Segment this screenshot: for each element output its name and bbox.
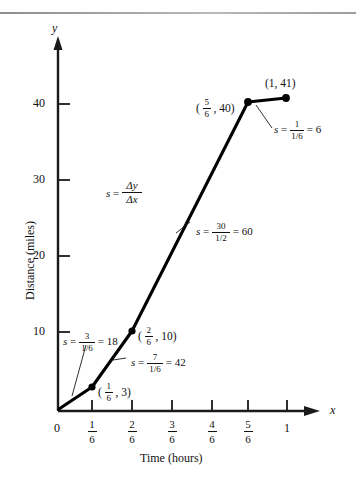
slope-60-result: 60 xyxy=(242,225,253,237)
point-2-6-10-numerator: 2 xyxy=(145,326,153,336)
slope-42-variable: s xyxy=(131,356,135,368)
y-axis-ticks xyxy=(58,104,70,332)
marker-1-6-3 xyxy=(88,383,95,390)
fraction-bar xyxy=(244,431,253,432)
point-2-6-10-denominator: 6 xyxy=(145,338,153,348)
slope-60-numerator: 30 xyxy=(212,222,230,232)
slope-42-equals: = xyxy=(138,356,144,368)
marker-2-6-10 xyxy=(128,327,135,334)
point-5-6-40-open: ( xyxy=(196,102,200,114)
x-axis-letter: x xyxy=(330,404,335,416)
x-tick-label-1: 1 xyxy=(284,422,290,434)
x-tick-label-5-6: 5 6 xyxy=(237,418,259,445)
x-tick-1-6-denominator: 6 xyxy=(81,433,103,445)
point-1-6-3-denominator: 6 xyxy=(105,394,113,404)
x-tick-label-1-6: 1 6 xyxy=(81,418,103,445)
x-tick-label-0: 0 xyxy=(54,422,60,434)
fraction-bar xyxy=(128,431,137,432)
x-axis-arrowhead xyxy=(304,406,320,416)
point-5-6-40-numerator: 5 xyxy=(203,98,211,108)
x-tick-4-6-denominator: 6 xyxy=(201,433,223,445)
leader-slope-6 xyxy=(256,105,272,128)
slope-6-denominator: 1/6 xyxy=(290,132,304,142)
x-tick-label-2-6: 2 6 xyxy=(121,418,143,445)
point-2-6-10-rest: , 10) xyxy=(156,330,177,342)
y-tick-label-30: 30 xyxy=(33,173,45,185)
y-axis-arrowhead xyxy=(54,36,63,50)
slope-annotation-18: s = 3 1/6 = 18 xyxy=(63,332,118,353)
slope-annotation-60: s = 30 1/2 = 60 xyxy=(196,222,253,243)
slope-18-denominator: 1/6 xyxy=(79,344,95,354)
slope-annotation-42: s = 7 1/6 = 42 xyxy=(131,353,186,374)
slope-6-numerator: 1 xyxy=(290,120,304,130)
point-label-5-6-40: ( 5 6 , 40) xyxy=(196,98,235,119)
x-tick-label-3-6: 3 6 xyxy=(161,418,183,445)
y-axis-title: Distance (miles) xyxy=(24,221,36,300)
x-axis-title: Time (hours) xyxy=(140,452,203,464)
slope-6-result: 6 xyxy=(316,123,322,135)
slope-18-equals-2: = xyxy=(98,335,104,347)
slope-annotation-6: s = 1 1/6 = 6 xyxy=(274,120,321,141)
figure-root: y x 40 30 20 10 0 1 6 2 6 3 6 4 6 5 6 1 … xyxy=(0,0,356,483)
slope-definition: s = Δy Δx xyxy=(106,180,142,206)
point-5-6-40-fraction: 5 6 xyxy=(203,98,211,119)
slope-60-denominator: 1/2 xyxy=(212,234,230,244)
x-tick-3-6-denominator: 6 xyxy=(161,433,183,445)
point-1-6-3-rest: , 3) xyxy=(116,386,131,398)
x-tick-2-6-numerator: 2 xyxy=(121,418,143,430)
slope-60-fraction: 30 1/2 xyxy=(212,222,230,243)
slope-42-result: 42 xyxy=(175,356,186,368)
slope-42-numerator: 7 xyxy=(147,353,163,363)
point-2-6-10-fraction: 2 6 xyxy=(145,326,153,347)
fraction-bar xyxy=(168,431,177,432)
leader-slope-42 xyxy=(113,358,126,360)
slope-42-equals-2: = xyxy=(166,356,172,368)
slope-60-equals-2: = xyxy=(233,225,239,237)
point-label-1-6-3: ( 1 6 , 3) xyxy=(98,382,131,403)
point-1-6-3-open: ( xyxy=(98,386,102,398)
slope-definition-denominator: Δx xyxy=(122,194,142,206)
fraction-bar xyxy=(88,431,97,432)
x-tick-label-4-6: 4 6 xyxy=(201,418,223,445)
y-tick-label-40: 40 xyxy=(33,97,45,109)
slope-6-equals: = xyxy=(281,123,287,135)
slope-definition-variable: s xyxy=(106,187,110,199)
slope-definition-equals: = xyxy=(113,187,119,199)
slope-6-equals-2: = xyxy=(307,123,313,135)
x-tick-4-6-numerator: 4 xyxy=(201,418,223,430)
x-tick-2-6-denominator: 6 xyxy=(121,433,143,445)
point-5-6-40-rest: , 40) xyxy=(214,102,235,114)
point-label-2-6-10: ( 2 6 , 10) xyxy=(138,326,177,347)
slope-definition-fraction: Δy Δx xyxy=(122,180,142,206)
marker-1-41 xyxy=(282,94,290,102)
x-tick-5-6-numerator: 5 xyxy=(237,418,259,430)
slope-60-variable: s xyxy=(196,225,200,237)
slope-6-variable: s xyxy=(274,123,278,135)
data-point-markers xyxy=(88,94,290,391)
point-2-6-10-open: ( xyxy=(138,330,142,342)
slope-18-numerator: 3 xyxy=(79,332,95,342)
slope-definition-numerator: Δy xyxy=(122,180,142,192)
x-tick-1-6-numerator: 1 xyxy=(81,418,103,430)
slope-6-fraction: 1 1/6 xyxy=(290,120,304,141)
slope-18-result: 18 xyxy=(107,335,118,347)
x-tick-5-6-denominator: 6 xyxy=(237,433,259,445)
y-axis-letter: y xyxy=(52,22,57,34)
slope-18-fraction: 3 1/6 xyxy=(79,332,95,353)
point-1-6-3-fraction: 1 6 xyxy=(105,382,113,403)
slope-18-equals: = xyxy=(70,335,76,347)
point-1-6-3-numerator: 1 xyxy=(105,382,113,392)
slope-18-variable: s xyxy=(63,335,67,347)
slope-42-denominator: 1/6 xyxy=(147,365,163,375)
point-5-6-40-denominator: 6 xyxy=(203,110,211,120)
x-tick-3-6-numerator: 3 xyxy=(161,418,183,430)
point-label-1-41: (1, 41) xyxy=(265,78,296,90)
slope-60-equals: = xyxy=(203,225,209,237)
marker-5-6-40 xyxy=(244,98,252,106)
fraction-bar xyxy=(208,431,217,432)
y-tick-label-10: 10 xyxy=(33,325,45,337)
slope-42-fraction: 7 1/6 xyxy=(147,353,163,374)
chart-canvas xyxy=(0,0,356,483)
